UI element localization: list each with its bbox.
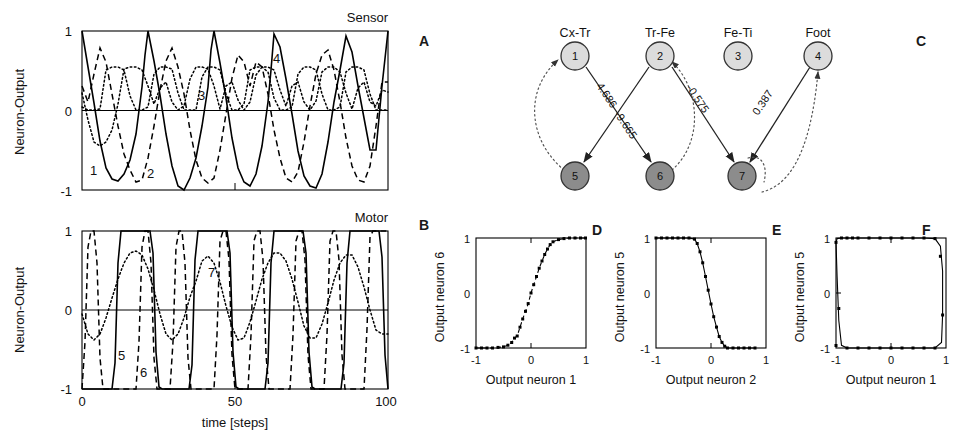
feedback-foot-loop	[762, 72, 818, 192]
panel-e-xtick-neg1: -1	[651, 354, 661, 366]
panel-b-ytick-0: 0	[65, 303, 72, 318]
panel-f-xtick-1: 1	[943, 354, 949, 366]
panel-b-curve-label-7: 7	[208, 265, 215, 280]
panel-d-ylabel: Output neuron 6	[433, 252, 447, 342]
node-5-label: 5	[572, 170, 578, 182]
node-7-label: 7	[739, 170, 745, 182]
panel-f-xtick-0: 0	[888, 354, 894, 366]
panel-c-network-diagram: Cx-Tr Tr-Fe Fe-Ti Foot 4.686 -9.665 -0.5…	[500, 10, 970, 210]
panel-a-curve-label-1: 1	[90, 163, 97, 178]
weight-label-neg9-665: -9.665	[612, 108, 639, 141]
panel-e-xlabel: Output neuron 2	[666, 373, 756, 387]
panel-a-ylabel: Neuron-Output	[12, 69, 27, 155]
panel-f-svg: Output neuron 5 1 0 -1	[788, 212, 970, 437]
node-3-label: 3	[735, 50, 741, 62]
node-3[interactable]: 3	[724, 42, 752, 70]
panel-a-ytick-0: 0	[65, 104, 72, 119]
panel-b-ylabel: Neuron-Output	[12, 267, 27, 353]
panel-letter-f: F	[922, 222, 931, 238]
panel-e-curve	[656, 238, 755, 348]
weight-label-0-387: 0.387	[750, 88, 775, 118]
panel-d-ytick-1: 1	[464, 233, 470, 245]
node-header-foot: Foot	[805, 26, 831, 40]
panel-f-xlabel: Output neuron 1	[846, 373, 936, 387]
panel-b-curve-label-6: 6	[140, 365, 147, 380]
panel-f-curve	[836, 238, 943, 348]
panel-b-xlabel: time [steps]	[202, 415, 268, 430]
panel-a-ytick-1: 1	[65, 24, 72, 39]
panel-b-svg: Motor Neuron-Output 1 0 -1 5 6 7 0 50 10…	[0, 205, 420, 437]
node-1-label: 1	[572, 50, 578, 62]
node-4[interactable]: 4	[804, 42, 832, 70]
node-header-cx-tr: Cx-Tr	[560, 26, 591, 40]
panel-d-ytick-0: 0	[464, 288, 470, 300]
panel-a-curve-label-4: 4	[273, 51, 280, 66]
panel-b-series-7	[82, 251, 388, 340]
panel-b-corner-label: Motor	[355, 210, 389, 225]
panel-d-scatter-plot: Output neuron 6 1 0 -1	[428, 212, 608, 437]
panel-b-ytick-neg1: -1	[60, 382, 72, 397]
panel-a-ytick-neg1: -1	[60, 184, 72, 199]
panel-b-motor-plot: Motor Neuron-Output 1 0 -1 5 6 7 0 50 10…	[0, 205, 420, 437]
panel-f-ytick-1: 1	[824, 233, 830, 245]
panel-b-ytick-1: 1	[65, 224, 72, 239]
figure-root: Sensor Neuron-Output 1 0 -1 1 2 3 4	[0, 0, 970, 437]
node-4-label: 4	[815, 50, 821, 62]
panel-f-ylabel: Output neuron 5	[793, 252, 807, 342]
panel-letter-d: D	[592, 222, 602, 238]
panel-b-xtick-100: 100	[375, 394, 397, 409]
node-6[interactable]: 6	[646, 162, 674, 190]
panel-e-ylabel: Output neuron 5	[613, 252, 627, 342]
panel-a-sensor-plot: Sensor Neuron-Output 1 0 -1 1 2 3 4	[0, 0, 420, 205]
node-2-label: 2	[657, 50, 663, 62]
panel-d-ytick-neg1: -1	[460, 343, 470, 355]
node-5[interactable]: 5	[561, 162, 589, 190]
node-1[interactable]: 1	[561, 42, 589, 70]
panel-e-markers	[655, 237, 757, 350]
node-7[interactable]: 7	[728, 162, 756, 190]
weight-label-4-686: 4.686	[594, 80, 619, 110]
feedback-5-to-1	[535, 60, 564, 170]
panel-f-hysteresis-plot: Output neuron 5 1 0 -1	[788, 212, 970, 437]
panel-e-svg: Output neuron 5 1 0 -1	[608, 212, 788, 437]
panel-e-axes-box	[656, 238, 766, 348]
panel-f-xtick-neg1: -1	[831, 354, 841, 366]
panel-b-xtick-0: 0	[78, 394, 85, 409]
panel-c-svg: Cx-Tr Tr-Fe Fe-Ti Foot 4.686 -9.665 -0.5…	[500, 10, 970, 210]
panel-d-xtick-neg1: -1	[471, 354, 481, 366]
panel-d-markers	[475, 237, 588, 350]
panel-a-curve-label-2: 2	[147, 166, 154, 181]
panel-d-svg: Output neuron 6 1 0 -1	[428, 212, 608, 437]
panel-e-ytick-neg1: -1	[640, 343, 650, 355]
panel-e-xtick-1: 1	[763, 354, 769, 366]
panel-d-xlabel: Output neuron 1	[486, 373, 576, 387]
panel-a-curve-label-3: 3	[198, 88, 205, 103]
edge-2-to-7	[672, 67, 734, 162]
panel-letter-c: C	[916, 33, 926, 49]
panel-d-xtick-1: 1	[583, 354, 589, 366]
panel-a-corner-label: Sensor	[347, 10, 389, 25]
panel-e-scatter-plot: Output neuron 5 1 0 -1	[608, 212, 788, 437]
panel-d-xtick-0: 0	[528, 354, 534, 366]
panel-a-series-4	[82, 67, 388, 110]
panel-letter-a: A	[419, 33, 429, 49]
panel-letter-e: E	[772, 222, 781, 238]
panel-f-ytick-neg1: -1	[820, 343, 830, 355]
panel-b-curve-label-5: 5	[118, 348, 125, 363]
feedback-6-to-2	[672, 62, 695, 170]
panel-e-xtick-0: 0	[708, 354, 714, 366]
panel-f-axes-box	[836, 238, 946, 348]
node-header-fe-ti: Fe-Ti	[724, 26, 753, 40]
weight-label-neg0-575: -0.575	[684, 82, 711, 115]
panel-f-ytick-0: 0	[824, 288, 830, 300]
node-2[interactable]: 2	[646, 42, 674, 70]
panel-a-series-3	[82, 67, 388, 146]
panel-e-ytick-1: 1	[644, 233, 650, 245]
node-header-tr-fe: Tr-Fe	[645, 26, 675, 40]
panel-a-svg: Sensor Neuron-Output 1 0 -1 1 2 3 4	[0, 0, 420, 205]
panel-e-ytick-0: 0	[644, 288, 650, 300]
panel-b-xtick-50: 50	[228, 394, 242, 409]
node-6-label: 6	[657, 170, 663, 182]
panel-f-markers	[835, 237, 945, 350]
